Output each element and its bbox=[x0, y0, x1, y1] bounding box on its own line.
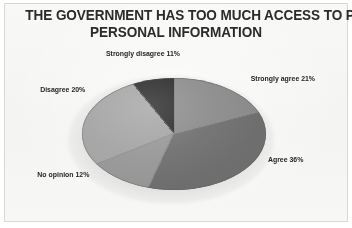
pie-slices bbox=[82, 78, 266, 190]
slice-label-no-opinion: No opinion 12% bbox=[37, 170, 89, 179]
infographic-screenshot: THE GOVERNMENT HAS TOO MUCH ACCESS TO PE… bbox=[0, 0, 352, 228]
slice-label-agree: Agree 36% bbox=[268, 155, 303, 164]
pie-stage bbox=[76, 58, 272, 208]
slice-divider bbox=[115, 78, 174, 134]
pie-top-face-container bbox=[82, 78, 266, 190]
slice-label-strongly-agree: Strongly agree 21% bbox=[251, 74, 315, 83]
slice-label-strongly-disagree: Strongly disagree 11% bbox=[106, 49, 180, 58]
slice-divider bbox=[174, 111, 263, 135]
slice-label-disagree: Disagree 20% bbox=[40, 85, 85, 94]
slice-divider bbox=[174, 78, 175, 134]
slice-divider bbox=[88, 133, 174, 168]
slice-divider bbox=[134, 134, 174, 190]
pie-chart: Strongly disagree 11% Strongly agree 21%… bbox=[0, 0, 352, 228]
